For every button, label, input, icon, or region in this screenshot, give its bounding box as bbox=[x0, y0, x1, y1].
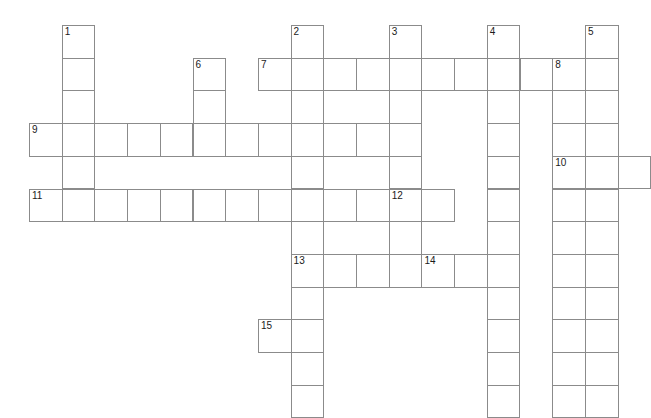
crossword-cell[interactable] bbox=[389, 90, 423, 124]
crossword-cell[interactable] bbox=[356, 123, 390, 157]
crossword-cell[interactable] bbox=[585, 385, 619, 418]
crossword-cell[interactable] bbox=[62, 58, 96, 92]
crossword-cell-numbered[interactable]: 11 bbox=[29, 189, 63, 223]
crossword-cell[interactable] bbox=[62, 156, 96, 190]
crossword-cell[interactable] bbox=[487, 90, 521, 124]
crossword-cell-numbered[interactable]: 14 bbox=[421, 254, 455, 288]
crossword-cell[interactable] bbox=[193, 90, 227, 124]
crossword-cell-numbered[interactable]: 7 bbox=[258, 58, 292, 92]
crossword-cell[interactable] bbox=[454, 58, 488, 92]
crossword-cell[interactable] bbox=[454, 254, 488, 288]
crossword-cell[interactable] bbox=[160, 189, 194, 223]
crossword-cell[interactable] bbox=[258, 123, 292, 157]
crossword-cell[interactable] bbox=[94, 123, 128, 157]
crossword-cell[interactable] bbox=[421, 58, 455, 92]
crossword-cell[interactable] bbox=[160, 123, 194, 157]
crossword-cell-numbered[interactable]: 5 bbox=[585, 25, 619, 59]
crossword-cell[interactable] bbox=[291, 90, 325, 124]
crossword-cell[interactable] bbox=[323, 254, 357, 288]
crossword-cell[interactable] bbox=[552, 287, 586, 321]
crossword-cell[interactable] bbox=[291, 287, 325, 321]
crossword-cell[interactable] bbox=[193, 189, 227, 223]
crossword-cell[interactable] bbox=[487, 385, 521, 418]
crossword-cell[interactable] bbox=[618, 156, 651, 190]
crossword-cell[interactable] bbox=[487, 352, 521, 386]
crossword-cell[interactable] bbox=[552, 189, 586, 223]
crossword-cell[interactable] bbox=[585, 58, 619, 92]
crossword-cell[interactable] bbox=[487, 156, 521, 190]
crossword-cell-numbered[interactable]: 15 bbox=[258, 319, 292, 353]
crossword-cell[interactable] bbox=[389, 221, 423, 255]
crossword-cell[interactable] bbox=[552, 352, 586, 386]
crossword-cell[interactable] bbox=[585, 352, 619, 386]
crossword-cell[interactable] bbox=[552, 221, 586, 255]
crossword-cell-numbered[interactable]: 6 bbox=[193, 58, 227, 92]
crossword-cell[interactable] bbox=[389, 58, 423, 92]
cell-letter bbox=[422, 255, 454, 287]
cell-letter bbox=[553, 353, 585, 385]
crossword-cell[interactable] bbox=[62, 189, 96, 223]
crossword-cell[interactable] bbox=[258, 189, 292, 223]
crossword-cell[interactable] bbox=[127, 189, 161, 223]
crossword-cell[interactable] bbox=[356, 189, 390, 223]
cell-letter bbox=[553, 288, 585, 320]
crossword-cell[interactable] bbox=[127, 123, 161, 157]
crossword-cell[interactable] bbox=[389, 123, 423, 157]
crossword-cell-numbered[interactable]: 9 bbox=[29, 123, 63, 157]
crossword-cell[interactable] bbox=[585, 156, 619, 190]
crossword-cell[interactable] bbox=[585, 254, 619, 288]
crossword-cell[interactable] bbox=[487, 58, 521, 92]
crossword-cell[interactable] bbox=[487, 221, 521, 255]
crossword-cell[interactable] bbox=[225, 123, 259, 157]
crossword-cell[interactable] bbox=[487, 287, 521, 321]
crossword-cell-numbered[interactable]: 2 bbox=[291, 25, 325, 59]
crossword-cell[interactable] bbox=[291, 123, 325, 157]
crossword-cell-numbered[interactable]: 10 bbox=[552, 156, 586, 190]
crossword-cell[interactable] bbox=[552, 385, 586, 418]
crossword-cell[interactable] bbox=[291, 319, 325, 353]
crossword-cell[interactable] bbox=[585, 123, 619, 157]
crossword-cell[interactable] bbox=[585, 189, 619, 223]
crossword-cell[interactable] bbox=[421, 189, 455, 223]
crossword-cell[interactable] bbox=[291, 221, 325, 255]
crossword-cell[interactable] bbox=[94, 189, 128, 223]
crossword-cell[interactable] bbox=[487, 319, 521, 353]
crossword-cell-numbered[interactable]: 8 bbox=[552, 58, 586, 92]
crossword-cell-numbered[interactable]: 4 bbox=[487, 25, 521, 59]
crossword-cell[interactable] bbox=[585, 90, 619, 124]
crossword-cell[interactable] bbox=[225, 189, 259, 223]
crossword-cell[interactable] bbox=[520, 58, 554, 92]
crossword-cell[interactable] bbox=[291, 58, 325, 92]
crossword-cell[interactable] bbox=[552, 123, 586, 157]
crossword-cell[interactable] bbox=[356, 58, 390, 92]
crossword-cell[interactable] bbox=[552, 90, 586, 124]
crossword-cell[interactable] bbox=[585, 319, 619, 353]
crossword-cell[interactable] bbox=[193, 123, 227, 157]
crossword-cell[interactable] bbox=[389, 156, 423, 190]
crossword-cell[interactable] bbox=[62, 90, 96, 124]
crossword-cell[interactable] bbox=[291, 156, 325, 190]
crossword-cell[interactable] bbox=[323, 123, 357, 157]
crossword-cell[interactable] bbox=[389, 254, 423, 288]
crossword-cell-numbered[interactable]: 13 bbox=[291, 254, 325, 288]
crossword-cell[interactable] bbox=[585, 287, 619, 321]
crossword-cell[interactable] bbox=[323, 189, 357, 223]
crossword-cell[interactable] bbox=[487, 123, 521, 157]
crossword-cell[interactable] bbox=[291, 189, 325, 223]
crossword-cell[interactable] bbox=[552, 319, 586, 353]
cell-letter bbox=[390, 190, 422, 222]
crossword-cell[interactable] bbox=[552, 254, 586, 288]
crossword-cell[interactable] bbox=[291, 352, 325, 386]
crossword-cell[interactable] bbox=[487, 254, 521, 288]
cell-letter bbox=[161, 190, 193, 222]
crossword-cell[interactable] bbox=[585, 221, 619, 255]
crossword-cell-numbered[interactable]: 1 bbox=[62, 25, 96, 59]
crossword-cell[interactable] bbox=[291, 385, 325, 418]
crossword-cell-numbered[interactable]: 12 bbox=[389, 189, 423, 223]
crossword-cell[interactable] bbox=[487, 189, 521, 223]
crossword-cell-numbered[interactable]: 3 bbox=[389, 25, 423, 59]
crossword-cell[interactable] bbox=[356, 254, 390, 288]
crossword-cell[interactable] bbox=[323, 58, 357, 92]
crossword-cell[interactable] bbox=[62, 123, 96, 157]
